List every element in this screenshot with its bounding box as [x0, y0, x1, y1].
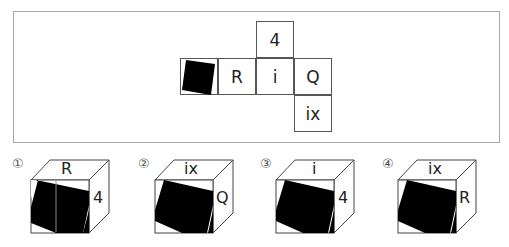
cube-top-label: ix: [428, 159, 442, 178]
net-face-q: Q: [294, 58, 332, 95]
net-face-pattern: [180, 58, 218, 95]
cube-side-label: R: [459, 188, 470, 207]
cube-top-label: ix: [184, 159, 198, 178]
net-face-label: i: [273, 67, 278, 87]
net-face-label: 4: [270, 30, 281, 50]
black-square-icon: [181, 59, 219, 96]
option-number: ③: [260, 156, 272, 171]
cube-top-label: i: [312, 159, 316, 178]
net-face-top: 4: [256, 21, 294, 58]
net-face-bottom: ix: [294, 95, 332, 132]
cube-side-label: 4: [93, 188, 103, 207]
option-number: ①: [12, 156, 24, 171]
cube-side-label: 4: [338, 188, 348, 207]
cube-side-label: Q: [216, 188, 229, 207]
option-number: ②: [138, 156, 150, 171]
option-number: ④: [382, 156, 394, 171]
net-face-r: R: [218, 58, 256, 95]
net-face-label: ix: [306, 104, 321, 124]
net-face-label: R: [231, 67, 243, 87]
cube-top-label: R: [61, 159, 72, 178]
net-face-i: i: [256, 58, 294, 95]
net-face-label: Q: [306, 67, 319, 87]
